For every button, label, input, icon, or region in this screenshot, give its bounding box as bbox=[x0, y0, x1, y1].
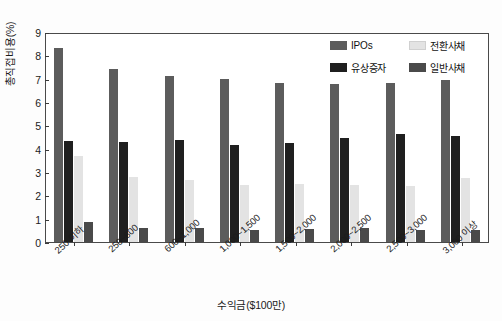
legend-label: 전환사채 bbox=[430, 38, 465, 53]
legend-swatch-icon bbox=[409, 63, 426, 72]
bar bbox=[250, 230, 259, 242]
y-axis-tick-mark bbox=[45, 243, 49, 244]
legend-swatch-icon bbox=[409, 41, 426, 50]
bar bbox=[416, 230, 425, 242]
bar-group bbox=[157, 34, 212, 242]
y-axis-tick-label: 4 bbox=[35, 144, 41, 155]
y-axis-tick-mark bbox=[45, 150, 49, 151]
y-axis-tick-label: 3 bbox=[35, 168, 41, 179]
legend-item: 전환사채 bbox=[409, 38, 482, 53]
bar bbox=[165, 76, 174, 242]
chart-legend: IPOs전환사채유상증자일반사채 bbox=[330, 38, 482, 75]
y-axis-tick-labels: 0123456789 bbox=[24, 33, 41, 243]
bar bbox=[195, 228, 204, 242]
legend-item: 유상증자 bbox=[330, 60, 403, 75]
y-axis-tick-mark bbox=[45, 80, 49, 81]
y-axis-tick-mark bbox=[45, 33, 49, 34]
bar bbox=[220, 79, 229, 242]
bar bbox=[441, 80, 450, 242]
legend-label: 일반사채 bbox=[430, 60, 465, 75]
y-axis-tick-label: 1 bbox=[35, 214, 41, 225]
y-axis-tick-label: 2 bbox=[35, 191, 41, 202]
chart-page: 총직접비용(%) 0123456789 250 이하250~600600~1,0… bbox=[0, 0, 502, 321]
bar-group bbox=[212, 34, 267, 242]
legend-item: IPOs bbox=[330, 38, 403, 53]
bar-group bbox=[267, 34, 322, 242]
y-axis-tick-label: 9 bbox=[35, 28, 41, 39]
x-axis-tick-labels: 250 이하250~600600~1,0001,000~1,5001,500~2… bbox=[45, 246, 489, 294]
bar bbox=[139, 228, 148, 242]
bar bbox=[396, 134, 405, 242]
legend-label: 유상증자 bbox=[351, 60, 386, 75]
y-axis-tick-mark bbox=[45, 103, 49, 104]
bar bbox=[451, 136, 460, 242]
legend-label: IPOs bbox=[351, 40, 372, 51]
y-axis-tick-label: 7 bbox=[35, 74, 41, 85]
x-axis-title: 수익금($100만) bbox=[0, 297, 502, 312]
y-axis-tick-label: 5 bbox=[35, 121, 41, 132]
bar bbox=[386, 83, 395, 242]
bar bbox=[330, 84, 339, 242]
legend-item: 일반사채 bbox=[409, 60, 482, 75]
bar bbox=[360, 228, 369, 242]
legend-swatch-icon bbox=[330, 63, 347, 72]
bar-group bbox=[46, 34, 101, 242]
bar bbox=[275, 83, 284, 242]
y-axis-tick-mark bbox=[45, 56, 49, 57]
y-axis-tick-mark bbox=[45, 220, 49, 221]
bar bbox=[54, 48, 63, 242]
bar-group bbox=[101, 34, 156, 242]
y-axis-tick-label: 0 bbox=[35, 238, 41, 249]
bar bbox=[305, 229, 314, 242]
y-axis-tick-mark bbox=[45, 196, 49, 197]
y-axis-title: 총직접비용(%) bbox=[2, 0, 20, 114]
y-axis-tick-mark bbox=[45, 173, 49, 174]
y-axis-tick-label: 8 bbox=[35, 51, 41, 62]
y-axis-tick-label: 6 bbox=[35, 98, 41, 109]
y-axis-tick-mark bbox=[45, 126, 49, 127]
legend-swatch-icon bbox=[330, 41, 347, 50]
bar bbox=[109, 69, 118, 242]
